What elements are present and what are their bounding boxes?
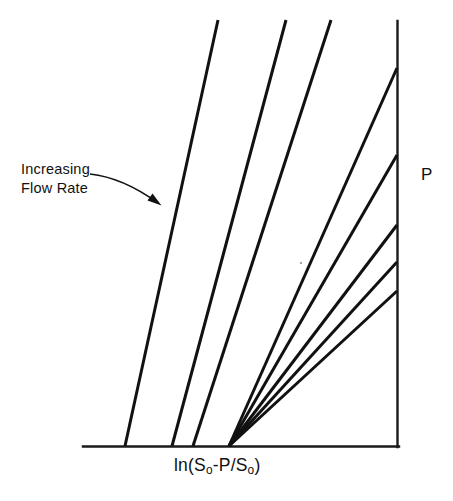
x-label-sub-1: o — [206, 463, 213, 477]
x-label-sub-2: o — [248, 463, 255, 477]
x-label-suffix: ) — [254, 455, 260, 475]
annotation-line-2: Flow Rate — [21, 179, 90, 198]
y-axis-label: P — [421, 165, 433, 185]
data-line-1 — [125, 20, 218, 446]
x-label-prefix: ln(S — [174, 455, 206, 475]
increasing-flow-rate-arrow — [90, 174, 162, 206]
annotation-line-1: Increasing — [21, 160, 90, 179]
data-line-8 — [229, 291, 397, 446]
data-line-3 — [193, 20, 331, 446]
scan-speck — [300, 262, 302, 264]
x-axis-label: ln(So-P/So) — [174, 455, 260, 476]
annotation-label: Increasing Flow Rate — [21, 160, 90, 199]
figure-container: Increasing Flow Rate P ln(So-P/So) — [0, 0, 453, 501]
x-label-mid: -P/S — [213, 455, 248, 475]
data-line-5 — [229, 155, 397, 446]
data-line-2 — [172, 20, 286, 446]
plot-canvas — [0, 0, 453, 501]
data-line-7 — [229, 262, 397, 446]
